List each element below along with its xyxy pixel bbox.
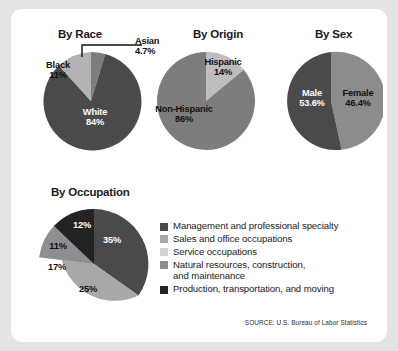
label-male: Male53.6% [291,88,333,109]
legend-label: Service occupations [173,246,257,257]
occupation-legend: Management and professional specialty Sa… [160,220,386,296]
legend-swatch-icon [160,248,168,256]
chart-title-by-occupation: By Occupation [51,186,130,198]
label-non-hispanic: Non-Hispanic86% [147,104,221,125]
chart-title-by-origin: By Origin [193,28,243,40]
label-occ-natural: 11% [43,241,73,251]
legend-label: Management and professional specialty [173,220,338,231]
legend-label: Production, transportation, and moving [173,283,334,294]
legend-label: Natural resources, construction, [173,259,305,270]
label-black: Black11% [35,60,81,81]
label-hispanic: Hispanic14% [195,57,251,78]
legend-label-group: Natural resources, construction, and mai… [173,259,305,282]
label-occ-production: 12% [67,220,97,230]
source-note: SOURCE: U.S. Bureau of Labor Statistics [245,319,367,326]
label-occ-service: 17% [42,262,72,272]
label-occ-sales: 25% [73,284,103,294]
legend-label: Sales and office occupations [173,233,292,244]
chart-panel: By Race Asian4.7% Black11% [11,9,387,342]
chart-title-by-sex: By Sex [315,28,352,40]
legend-item-management: Management and professional specialty [160,220,386,231]
legend-swatch-icon [160,286,168,294]
legend-label-continuation: and maintenance [173,270,305,281]
legend-item-natural-resources: Natural resources, construction, and mai… [160,259,386,282]
asian-leader-line [72,40,144,58]
label-occ-management: 35% [97,235,127,245]
label-white: White84% [73,107,117,128]
chart-title-by-race: By Race [58,28,102,40]
legend-swatch-icon [160,223,168,231]
legend-item-sales: Sales and office occupations [160,233,386,244]
label-female: Female46.4% [335,88,381,109]
legend-item-production: Production, transportation, and moving [160,283,386,294]
figure-root: By Race Asian4.7% Black11% [0,0,398,351]
legend-swatch-icon [160,235,168,243]
legend-swatch-icon [160,261,168,269]
legend-item-service: Service occupations [160,246,386,257]
